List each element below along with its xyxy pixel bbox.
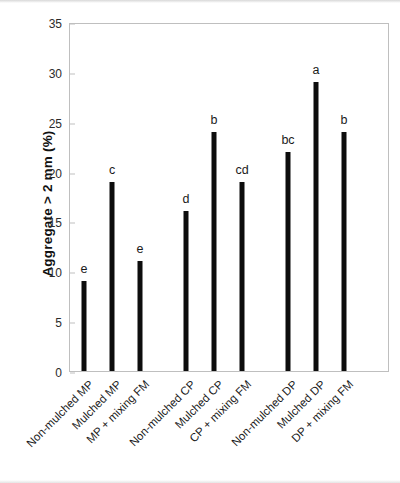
scan-edge-top: [0, 0, 400, 3]
bar-significance-label: e: [137, 242, 144, 256]
y-tick-label: 25: [49, 117, 70, 131]
y-tick-label: 5: [55, 316, 70, 330]
y-tick-label: 0: [55, 366, 70, 380]
y-tick-mark: [70, 123, 75, 124]
bar: [314, 82, 319, 371]
bar: [286, 152, 291, 371]
bar-significance-label: a: [313, 63, 320, 77]
y-tick-mark: [70, 73, 75, 74]
y-tick-label: 10: [49, 266, 70, 280]
y-tick-mark: [70, 24, 75, 25]
bar-chart-figure: Aggregate > 2 mm (%) 05101520253035 eced…: [0, 0, 400, 483]
bar: [212, 132, 217, 371]
bar: [342, 132, 347, 371]
bar: [138, 261, 143, 371]
bar-significance-label: b: [341, 113, 348, 127]
y-tick-mark: [70, 223, 75, 224]
y-tick-mark: [70, 373, 75, 374]
bar-significance-label: d: [183, 192, 190, 206]
bar-significance-label: bc: [281, 133, 294, 147]
y-tick-label: 30: [49, 67, 70, 81]
plot-area: 05101520253035 ecedbcdbcab: [69, 23, 389, 372]
bar: [82, 281, 87, 371]
bar: [240, 182, 245, 371]
bar: [184, 211, 189, 371]
y-tick-label: 20: [49, 167, 70, 181]
y-tick-label: 15: [49, 216, 70, 230]
bar-significance-label: cd: [235, 163, 248, 177]
y-tick-mark: [70, 273, 75, 274]
y-tick-label: 35: [49, 17, 70, 31]
bar: [110, 182, 115, 371]
y-tick-mark: [70, 323, 75, 324]
bar-significance-label: b: [211, 113, 218, 127]
y-tick-mark: [70, 173, 75, 174]
bar-significance-label: c: [109, 163, 115, 177]
bar-significance-label: e: [81, 262, 88, 276]
